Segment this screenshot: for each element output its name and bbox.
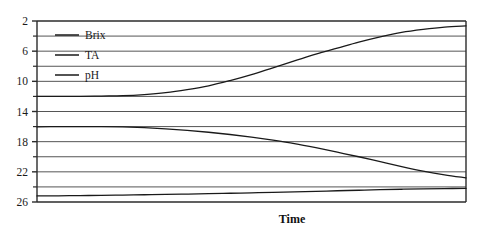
legend-label-brix: Brix [85, 29, 106, 41]
y-tick-label-6: 6 [22, 45, 28, 57]
figure-container: 262218141062 BrixTApH Time [0, 0, 479, 234]
y-tick-label-2: 2 [22, 15, 28, 27]
legend-label-ph: pH [85, 69, 99, 82]
y-tick-label-14: 14 [17, 106, 29, 118]
brix-ta-ph-line-chart: 262218141062 BrixTApH Time [0, 0, 479, 234]
y-tick-label-26: 26 [17, 196, 29, 208]
legend-label-ta: TA [85, 49, 100, 61]
y-tick-label-22: 22 [17, 166, 29, 178]
y-tick-label-10: 10 [17, 75, 29, 87]
y-tick-label-18: 18 [17, 136, 29, 148]
x-axis-title: Time [279, 212, 306, 226]
